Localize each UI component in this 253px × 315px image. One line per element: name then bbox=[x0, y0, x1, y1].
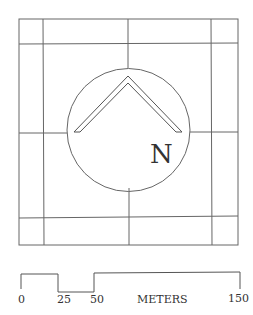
scale-unit: METERS bbox=[137, 293, 187, 306]
site-map: N 0 25 50 METERS 150 bbox=[0, 0, 253, 315]
grid bbox=[19, 19, 238, 245]
scale-bar bbox=[21, 272, 240, 292]
scale-tick-150: 150 bbox=[228, 292, 249, 305]
compass-circle bbox=[67, 69, 190, 192]
scale-tick-25: 25 bbox=[57, 293, 71, 306]
north-label: N bbox=[150, 139, 173, 169]
scale-tick-50: 50 bbox=[90, 293, 104, 306]
north-arrow-icon bbox=[74, 76, 182, 132]
grid-line-v1 bbox=[43, 19, 44, 245]
scale-tick-0: 0 bbox=[18, 293, 25, 306]
